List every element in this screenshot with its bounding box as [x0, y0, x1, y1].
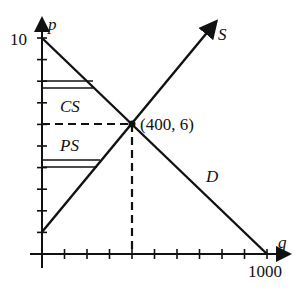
x-max-label: 1000 [248, 262, 282, 281]
cs-bracket [42, 81, 93, 88]
supply-label: S [218, 25, 227, 44]
equilibrium-label: (400, 6) [140, 115, 194, 134]
y-max-label: 10 [10, 30, 27, 49]
demand-label: D [205, 167, 219, 186]
cs-label: CS [60, 97, 80, 116]
equilibrium-point [129, 121, 136, 128]
p-axis-label: p [47, 15, 57, 34]
ps-bracket [42, 160, 100, 167]
ps-label: PS [59, 136, 79, 155]
supply-demand-chart: 10 p q 1000 S D CS PS (400, 6) [0, 0, 306, 293]
q-axis-label: q [278, 233, 287, 252]
